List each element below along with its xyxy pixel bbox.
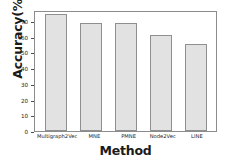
bar bbox=[45, 14, 67, 131]
x-tick-label: MNE bbox=[77, 133, 111, 140]
x-tick-slot: Multigraph2Vec bbox=[37, 133, 77, 143]
bar bbox=[80, 23, 102, 131]
bar-slot bbox=[178, 12, 213, 131]
x-tick-label: PMNE bbox=[112, 133, 146, 140]
bar bbox=[150, 35, 172, 131]
y-tick-label: 50 bbox=[6, 50, 28, 56]
y-tick-label: 10 bbox=[6, 113, 28, 119]
y-tick-label: 0 bbox=[6, 129, 28, 135]
y-axis-ticks: 010203040506070 bbox=[0, 0, 36, 164]
bar-chart: Accuracy(%) 010203040506070 Multigraph2V… bbox=[0, 0, 226, 164]
x-tick-slot: MNE bbox=[77, 133, 111, 143]
x-tick-label: Multigraph2Vec bbox=[37, 133, 77, 140]
y-tick-label: 40 bbox=[6, 66, 28, 72]
plot-area bbox=[34, 11, 217, 132]
bar-slot bbox=[108, 12, 143, 131]
bar-series bbox=[35, 12, 216, 131]
bar-slot bbox=[73, 12, 108, 131]
bar bbox=[185, 44, 207, 131]
bar bbox=[115, 23, 137, 131]
bar-slot bbox=[38, 12, 73, 131]
x-axis-ticks: Multigraph2VecMNEPMNENode2VecLINE bbox=[34, 133, 217, 143]
y-tick-label: 20 bbox=[6, 98, 28, 104]
y-tick-label: 70 bbox=[6, 19, 28, 25]
x-tick-slot: Node2Vec bbox=[146, 133, 180, 143]
bar-slot bbox=[143, 12, 178, 131]
y-tick-label: 60 bbox=[6, 35, 28, 41]
x-tick-label: LINE bbox=[180, 133, 214, 140]
x-tick-slot: PMNE bbox=[112, 133, 146, 143]
x-tick-slot: LINE bbox=[180, 133, 214, 143]
x-tick-label: Node2Vec bbox=[146, 133, 180, 140]
y-tick-label: 30 bbox=[6, 82, 28, 88]
x-axis-title: Method bbox=[34, 143, 217, 158]
